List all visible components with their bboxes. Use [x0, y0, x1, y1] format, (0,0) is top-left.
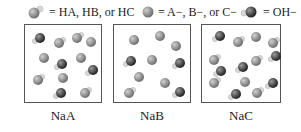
box-label-naa: NaA — [24, 108, 102, 124]
anion-icon — [248, 30, 264, 44]
acid-molecule-icon — [77, 86, 93, 100]
acid-molecule-icon — [30, 73, 46, 87]
hydroxide-icon — [268, 49, 284, 63]
acid-molecule-icon — [230, 35, 246, 49]
anion-icon — [141, 5, 155, 19]
legend-item-hydroxide: = OH− — [240, 4, 297, 20]
legend-label-acid: = HA, HB, or HC — [49, 5, 134, 20]
anion-icon — [55, 71, 71, 85]
hydroxide-icon — [172, 85, 188, 99]
anion-icon — [83, 35, 99, 49]
box-label-nac: NaC — [201, 108, 281, 124]
acid-molecule-icon — [26, 5, 46, 19]
hydroxide-icon — [172, 56, 188, 70]
hydroxide-icon — [53, 86, 69, 100]
solution-box-nab — [113, 24, 191, 103]
hydroxide-icon — [240, 5, 260, 19]
anion-icon — [126, 33, 142, 47]
acid-molecule-icon — [51, 36, 67, 50]
anion-icon — [157, 76, 173, 90]
anion-icon — [168, 39, 184, 53]
anion-icon — [36, 51, 52, 65]
legend-item-acid: = HA, HB, or HC — [26, 4, 134, 20]
acid-molecule-icon — [249, 86, 265, 100]
hydroxide-icon — [85, 63, 101, 77]
hydroxide-icon — [212, 29, 228, 43]
acid-molecule-icon — [206, 76, 222, 90]
legend-label-hydroxide: = OH− — [263, 5, 297, 20]
acid-molecule-icon — [265, 36, 281, 50]
solution-box-nac — [201, 24, 281, 103]
hydroxide-icon — [123, 54, 139, 68]
acid-molecule-icon — [121, 86, 137, 100]
hydroxide-icon — [32, 31, 48, 45]
legend-label-anion: = A−, B−, or C− — [158, 5, 237, 20]
hydroxide-icon — [228, 87, 244, 101]
anion-icon — [152, 29, 168, 43]
hydroxide-icon — [265, 76, 281, 90]
box-label-nab: NaB — [113, 108, 191, 124]
acid-molecule-icon — [248, 54, 264, 68]
legend-item-anion: = A−, B−, or C− — [141, 4, 237, 20]
solution-box-naa — [24, 24, 102, 103]
hydroxide-icon — [54, 57, 70, 71]
anion-icon — [144, 53, 160, 67]
legend: = HA, HB, or HC = A−, B−, or C− = OH− — [0, 4, 301, 20]
anion-icon — [131, 70, 147, 84]
